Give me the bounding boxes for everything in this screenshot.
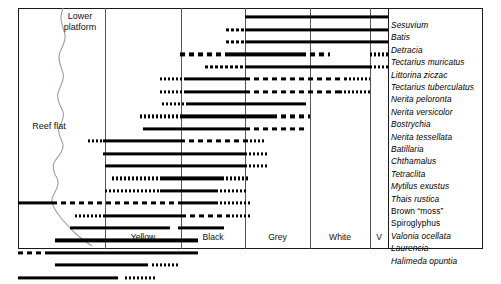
range-segment-dot	[370, 65, 388, 68]
zone-label-yellow: Yellow	[105, 232, 181, 242]
species-label: Brown “moss”	[391, 205, 443, 217]
species-label: Thais rustica	[391, 193, 439, 205]
range-segment-dot	[140, 115, 182, 118]
species-label: Tectarius tuberculatus	[391, 81, 474, 93]
range-segment-dash	[245, 90, 340, 93]
range-segment-solid	[103, 140, 180, 143]
range-segment-dot	[152, 264, 180, 267]
range-segment-solid	[143, 127, 245, 130]
range-segment-solid	[103, 152, 245, 155]
region-label-reef-flat: Reef flat	[20, 121, 78, 132]
range-segment-dot	[250, 140, 266, 143]
region-label-lower-platform: Lower platform	[50, 11, 110, 32]
range-segment-solid	[228, 53, 301, 56]
species-label: Valonia ocellata	[391, 230, 451, 242]
range-segment-solid	[48, 251, 198, 254]
species-label: Mytilus exustus	[391, 180, 449, 192]
range-segment-dashfine	[226, 40, 245, 43]
range-segment-solid	[160, 177, 222, 180]
range-segment-solid	[182, 115, 272, 118]
range-segment-solid	[245, 40, 388, 43]
range-segment-solid	[178, 226, 224, 229]
species-label: Nerita versicolor	[391, 106, 453, 118]
range-segment-solid	[160, 189, 216, 192]
range-segment-dash	[301, 53, 330, 56]
range-segment-dash	[272, 115, 310, 118]
range-segment-dashfine	[226, 28, 245, 31]
range-segment-solid	[245, 16, 388, 19]
species-label: Batis	[391, 31, 410, 43]
range-segment-dot	[345, 78, 370, 81]
range-segment-solid	[245, 65, 370, 68]
species-label: Nerita peloronta	[391, 93, 452, 105]
range-segment-solid	[186, 102, 306, 105]
range-segment-solid	[180, 202, 216, 205]
range-segment-solid	[70, 226, 170, 229]
range-segment-dash	[18, 251, 48, 254]
species-label: Nerita tessellata	[391, 131, 452, 143]
species-label: Batillaria	[391, 143, 424, 155]
range-segment-dot	[160, 78, 186, 81]
range-segment-dash	[245, 78, 345, 81]
range-segment-dot	[105, 189, 160, 192]
range-segment-dash	[245, 127, 305, 130]
range-segment-dot	[370, 53, 388, 56]
zone-label-white: White	[310, 232, 370, 242]
species-label: Tectarius muricatus	[391, 56, 465, 68]
range-segment-solid	[186, 90, 245, 93]
range-segment-dot	[112, 177, 160, 180]
range-segment-dash	[180, 140, 250, 143]
range-segment-dot	[160, 90, 186, 93]
range-segment-solid	[18, 202, 52, 205]
range-segment-dash	[181, 214, 228, 217]
species-label: Tetraclita	[391, 168, 425, 180]
range-segment-solid	[105, 164, 245, 167]
range-segment-solid	[55, 264, 148, 267]
range-segment-solid	[18, 276, 118, 279]
lower-platform-line2: platform	[50, 22, 110, 33]
range-segment-solid	[245, 28, 388, 31]
species-label: Halimeda opuntia	[391, 255, 457, 267]
range-segment-dot	[125, 276, 155, 279]
species-label: Laurencia	[391, 242, 428, 254]
species-label: Littorina ziczac	[391, 69, 447, 81]
range-segment-dot	[162, 102, 186, 105]
species-label: Detracia	[391, 44, 423, 56]
range-segment-dot	[216, 189, 248, 192]
range-segment-dot	[75, 214, 105, 217]
range-segment-dash	[52, 202, 180, 205]
range-segment-solid	[105, 214, 181, 217]
range-segment-dash	[180, 53, 228, 56]
range-segment-solid	[186, 78, 245, 81]
range-segment-dot	[222, 177, 250, 180]
species-label: Chthamalus	[391, 155, 436, 167]
zone-label-black: Black	[181, 232, 245, 242]
range-segment-dot	[245, 152, 268, 155]
range-segment-dot	[88, 140, 103, 143]
species-label: Bostrychia	[391, 118, 431, 130]
range-segment-dot	[245, 164, 268, 167]
range-segment-dot	[340, 90, 370, 93]
zone-label-grey: Grey	[245, 232, 310, 242]
species-range-row	[0, 36, 501, 48]
zone-label-v: V	[370, 232, 388, 242]
range-segment-dot	[216, 202, 250, 205]
species-range-row	[0, 271, 501, 283]
species-label: Spiroglyphus	[391, 217, 440, 229]
lower-platform-line1: Lower	[50, 11, 110, 22]
range-segment-dot	[228, 214, 250, 217]
range-segment-dashfine	[205, 65, 245, 68]
species-label: Sesuvium	[391, 19, 428, 31]
